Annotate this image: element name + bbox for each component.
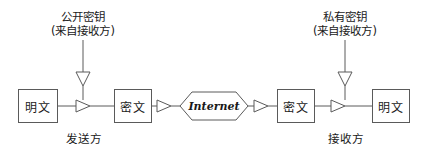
private-key-label-line1: 私有密钥 bbox=[304, 10, 386, 24]
node-plaintext-input: 明文 bbox=[18, 89, 58, 123]
arrow-right-icon-2 bbox=[157, 100, 171, 112]
node-internet-label: Internet bbox=[180, 92, 248, 120]
arrow-down-icon-2 bbox=[338, 72, 352, 86]
caption-sender: 发送方 bbox=[48, 130, 120, 146]
key-arrowheads bbox=[76, 72, 352, 86]
arrow-right-icon-4 bbox=[331, 100, 345, 112]
public-key-label-line1: 公开密钥 bbox=[42, 10, 124, 24]
arrow-down-icon-1 bbox=[76, 72, 90, 86]
private-key-label-line2: (来自接收方) bbox=[304, 24, 386, 38]
public-key-label-line2: (来自接收方) bbox=[42, 24, 124, 38]
node-ciphertext-received: 密文 bbox=[277, 89, 315, 123]
arrow-right-icon-1 bbox=[76, 100, 90, 112]
private-key-label: 私有密钥 (来自接收方) bbox=[304, 10, 386, 38]
caption-receiver: 接收方 bbox=[310, 130, 382, 146]
public-key-label: 公开密钥 (来自接收方) bbox=[42, 10, 124, 38]
node-plaintext-output: 明文 bbox=[372, 89, 410, 123]
crypto-flow-diagram: 公开密钥 (来自接收方) 私有密钥 (来自接收方) 明文 密文 Internet… bbox=[0, 0, 425, 152]
arrow-right-icon-3 bbox=[254, 100, 268, 112]
node-ciphertext-sent: 密文 bbox=[114, 89, 152, 123]
